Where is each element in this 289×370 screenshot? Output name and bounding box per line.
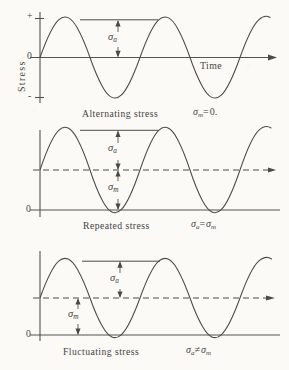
sigma-a-arrow-down-icon [115,163,120,170]
x-axis-arrow-icon [268,55,277,61]
sigma-a-arrow-down-icon [117,292,122,299]
sigma-subscript-a: a [113,146,117,155]
fatigue-stress-figure: Stress + 0 - Time σa Alternating stress … [0,0,289,370]
panel-alternating-stress: Stress + 0 - Time σa Alternating stress … [0,0,289,125]
sigma-a-arrow-up-icon [115,130,120,137]
caption-repeated-relation: σa=σm [191,218,216,231]
sigma-a-arrow-up-icon [117,261,122,268]
caption-alternating-text: Alternating stress [82,108,158,119]
caption-fluctuating-relation: σa≠σm [186,344,211,357]
panel-alternating-plot [0,0,289,125]
sigma-subscript-m: m [73,312,78,321]
sigma-m-arrow-up-icon [115,170,120,176]
panel-fluctuating-stress: 0 σa σm Fluctuating stress σa≠σm [0,243,289,370]
sigma-a-arrow-up-icon [115,20,120,27]
caption-repeated-text: Repeated stress [83,220,150,231]
panel-fluctuating-plot [0,243,289,370]
sigma-m-arrow-up-icon [75,298,80,304]
stress-waveform-fluctuating [40,257,272,337]
y-tick-zero-label: 0 [26,328,31,339]
y-tick-zero-label: 0 [27,50,32,61]
x-axis-label-time: Time [200,60,222,71]
y-tick-plus-label: + [27,10,33,21]
y-tick-minus-label: - [28,90,32,101]
sigma-m-arrow-down-icon [75,328,80,335]
relation-right-value: 0. [210,106,218,117]
sigma-a-label-alternating: σa [108,31,117,44]
sigma-subscript-m: m [113,185,118,194]
sigma-a-label-fluctuating: σa [110,272,119,285]
sigma-subscript-a: a [115,276,119,285]
mean-line-arrow-icon [268,168,276,173]
caption-alternating-relation: σm=0. [193,106,217,119]
panel-repeated-stress: 0 σa σm Repeated stress σa=σm [0,125,289,243]
mean-line-arrow-icon [266,296,275,301]
y-axis-label-stress: Stress [16,60,27,92]
relation-sigma-right-subscript: m [206,349,211,357]
sigma-m-label-fluctuating: σm [68,308,79,321]
sigma-subscript-a: a [113,35,117,44]
sigma-m-arrow-down-icon [115,203,120,210]
sigma-m-label-repeated: σm [108,181,119,194]
caption-fluctuating-text: Fluctuating stress [63,346,139,357]
relation-sigma-right-subscript: m [211,223,216,231]
relation-operator-equals: = [203,106,210,117]
y-tick-zero-label: 0 [26,203,31,214]
sigma-a-label-repeated: σa [108,142,117,155]
sigma-a-arrow-down-icon [115,51,120,58]
